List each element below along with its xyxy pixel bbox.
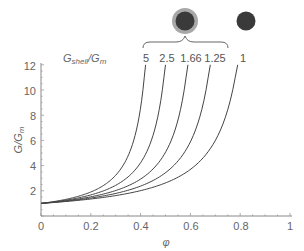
x-tick-labels: 0 0.2 0.4 0.6 0.8 1 bbox=[38, 220, 293, 232]
chart-canvas: Gshell/Gm 5 2.5 1.66 1.25 1 2 4 6 8 10 1… bbox=[0, 0, 304, 251]
curve-labels: 5 2.5 1.66 1.25 1 bbox=[143, 52, 246, 64]
curve-1 bbox=[41, 65, 238, 204]
legend-title: Gshell/Gm bbox=[63, 52, 107, 66]
svg-text:0: 0 bbox=[38, 220, 44, 232]
svg-text:1: 1 bbox=[287, 220, 293, 232]
svg-text:12: 12 bbox=[24, 60, 36, 72]
curve-5 bbox=[41, 65, 146, 204]
svg-text:0.8: 0.8 bbox=[233, 220, 248, 232]
svg-text:2: 2 bbox=[30, 185, 36, 197]
x-axis-title: φ bbox=[162, 236, 169, 248]
axis-ticks bbox=[41, 65, 290, 216]
curves bbox=[41, 65, 238, 204]
svg-text:0.2: 0.2 bbox=[83, 220, 98, 232]
svg-text:0.4: 0.4 bbox=[133, 220, 148, 232]
svg-text:0.6: 0.6 bbox=[183, 220, 198, 232]
svg-text:8: 8 bbox=[30, 110, 36, 122]
svg-text:4: 4 bbox=[30, 160, 36, 172]
core-shell-particle-icon bbox=[172, 8, 198, 34]
svg-text:6: 6 bbox=[30, 135, 36, 147]
curve-label-1.25: 1.25 bbox=[204, 52, 225, 64]
plain-particle-icon bbox=[237, 12, 256, 31]
curve-2.5 bbox=[41, 65, 166, 204]
curve-label-1: 1 bbox=[240, 52, 246, 64]
curve-label-1.66: 1.66 bbox=[180, 52, 201, 64]
curve-label-2.5: 2.5 bbox=[159, 52, 174, 64]
svg-text:10: 10 bbox=[24, 85, 36, 97]
grouping-brace bbox=[143, 36, 228, 48]
curve-label-5: 5 bbox=[143, 52, 149, 64]
y-axis-title: G/Gm bbox=[12, 126, 26, 153]
